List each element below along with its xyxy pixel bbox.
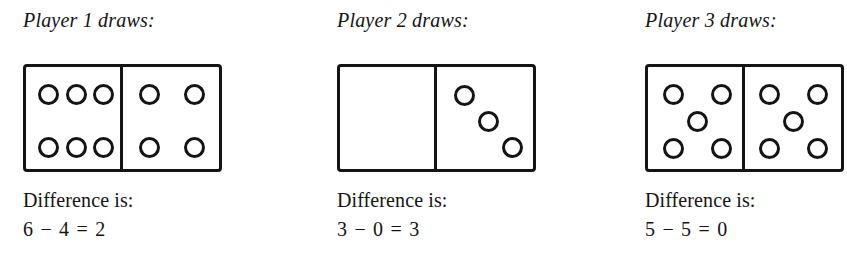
- pip: [711, 138, 732, 159]
- pip: [38, 84, 59, 105]
- difference-block-3: Difference is: 5 − 5 = 0: [645, 186, 755, 244]
- pip: [711, 84, 732, 105]
- domino-half-right-1: [123, 67, 220, 169]
- difference-block-1: Difference is: 6 − 4 = 2: [23, 186, 133, 244]
- difference-label-3: Difference is:: [645, 186, 755, 215]
- difference-equation-1: 6 − 4 = 2: [23, 215, 133, 244]
- pip: [66, 84, 87, 105]
- pip: [454, 85, 475, 106]
- difference-label-2: Difference is:: [337, 186, 447, 215]
- pip: [184, 84, 205, 105]
- domino-half-left-1: [26, 67, 123, 169]
- player-heading-2: Player 2 draws:: [337, 8, 469, 32]
- pip: [139, 137, 160, 158]
- player-panel-2: Player 2 draws: Difference is: 3 − 0 = 3: [314, 0, 596, 279]
- domino-tile-2: [337, 64, 536, 172]
- pip: [478, 111, 499, 132]
- pip: [759, 84, 780, 105]
- domino-tile-3: [645, 64, 844, 172]
- player-heading-1: Player 1 draws:: [23, 8, 155, 32]
- worksheet-canvas: Player 1 draws: Difference is: 6 − 4 = 2: [0, 0, 847, 279]
- pip: [502, 137, 523, 158]
- domino-half-right-3: [745, 67, 842, 169]
- pip: [663, 138, 684, 159]
- pip: [807, 138, 828, 159]
- domino-half-left-2: [340, 67, 437, 169]
- pip: [783, 111, 804, 132]
- pip: [184, 137, 205, 158]
- domino-half-left-3: [648, 67, 745, 169]
- pip: [66, 137, 87, 158]
- player-heading-3: Player 3 draws:: [645, 8, 777, 32]
- pip: [687, 111, 708, 132]
- difference-equation-2: 3 − 0 = 3: [337, 215, 447, 244]
- player-panel-1: Player 1 draws: Difference is: 6 − 4 = 2: [0, 0, 282, 279]
- difference-equation-3: 5 − 5 = 0: [645, 215, 755, 244]
- domino-tile-1: [23, 64, 222, 172]
- pip: [38, 137, 59, 158]
- domino-half-right-2: [437, 67, 534, 169]
- pip: [139, 84, 160, 105]
- player-panel-3: Player 3 draws: Difference is: 5 − 5 = 0: [622, 0, 847, 279]
- difference-label-1: Difference is:: [23, 186, 133, 215]
- pip: [93, 137, 114, 158]
- pip: [663, 84, 684, 105]
- pip: [807, 84, 828, 105]
- pip: [759, 138, 780, 159]
- pip: [93, 84, 114, 105]
- difference-block-2: Difference is: 3 − 0 = 3: [337, 186, 447, 244]
